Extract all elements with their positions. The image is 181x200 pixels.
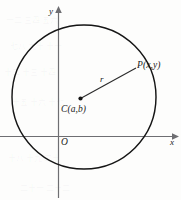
label-center-c: C(a,b) xyxy=(61,105,86,115)
y-axis xyxy=(55,6,62,198)
label-radius-r: r xyxy=(100,75,104,84)
label-axis-x: x xyxy=(170,138,174,147)
radius-segment xyxy=(81,68,137,99)
label-point-p: P(x,y) xyxy=(137,61,161,71)
center-point-marker xyxy=(78,96,82,100)
figure-canvas xyxy=(0,0,181,200)
geometry-figure: 一二 三四 五六 七八 九十 十一 十二 十三 十四 十五 十六 十七 十八 十… xyxy=(0,0,181,200)
label-axis-y: y xyxy=(49,7,53,16)
y-axis-arrowhead xyxy=(55,6,62,13)
x-axis xyxy=(0,133,179,140)
label-origin-o: O xyxy=(61,138,68,148)
